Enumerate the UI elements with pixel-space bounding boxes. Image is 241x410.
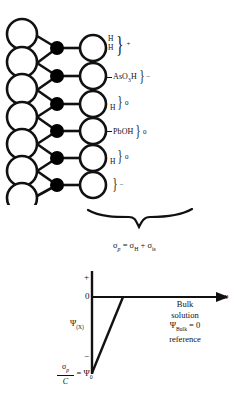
y-axis-tick-minus: − [84,351,89,361]
y-axis-tick-zero: 0 [85,291,90,301]
species-2-charge: − [146,73,150,81]
equals-sign: = [123,240,128,250]
surface-potential-formula: σp C = Ψ0 [57,362,93,386]
fraction: σp C [57,362,74,386]
bulk-line-4: reference [149,334,221,345]
plus-sign: + [140,240,145,250]
x-axis-label: x [224,291,228,301]
species-1-brace: } [117,41,124,47]
species-1-stacked-labels: H H [108,35,113,52]
surface-charge-equation: σp = σH + σis [113,240,156,252]
species-5-charge: 0 [125,153,129,161]
species-4-brace: } [136,129,141,135]
sigma-is-term: σis [147,240,155,250]
bulk-line-3: ΨBulk = 0 [149,320,221,334]
sigma-p-term: σp [113,240,121,250]
species-3-h: H [110,104,115,113]
y-axis-label: Ψ(X) [70,318,84,330]
species-label-5: H } 0 [110,152,129,167]
species-2-bond-dash [106,77,112,78]
species-4-bond-dash [106,131,112,132]
species-2-ligand: AsO3H [113,72,137,83]
species-label-3: H } 0 [110,98,129,113]
fraction-numerator: σp [60,362,71,375]
bulk-solution-annotation: Bulk solution ΨBulk = 0 reference [149,299,221,345]
species-5-h: H [110,158,115,167]
species-6-charge: − [120,181,124,189]
species-3-charge: 0 [125,99,129,107]
species-5-brace: } [118,154,123,160]
species-4-charge: 0 [143,128,147,136]
potential-profile-line [92,297,123,373]
formula-result: = Ψ0 [77,368,93,380]
species-1-charge: + [126,40,130,48]
species-3-brace: } [118,100,123,106]
grouping-brace [86,208,194,230]
species-3-stacked-labels: H [110,98,115,113]
species-label-4: PbOH } 0 [106,127,147,136]
y-axis-tick-plus: + [84,272,89,282]
sigma-h-term: σH [130,240,139,250]
bulk-line-2: solution [149,310,221,321]
species-2-brace: } [139,74,144,80]
fraction-denominator: C [61,376,70,386]
species-1-h-bottom: H [108,44,113,53]
species-6-brace: } [113,182,118,188]
bulk-line-1: Bulk [149,299,221,310]
figure-canvas: H H } + AsO3H } − H } 0 PbOH } 0 H } 0 } [0,0,241,410]
species-4-ligand: PbOH [113,127,133,136]
species-5-stacked-labels: H [110,152,115,167]
species-label-2: AsO3H } − [106,72,150,83]
species-label-1: H H } + [108,35,130,52]
species-label-6: } − [110,181,124,189]
